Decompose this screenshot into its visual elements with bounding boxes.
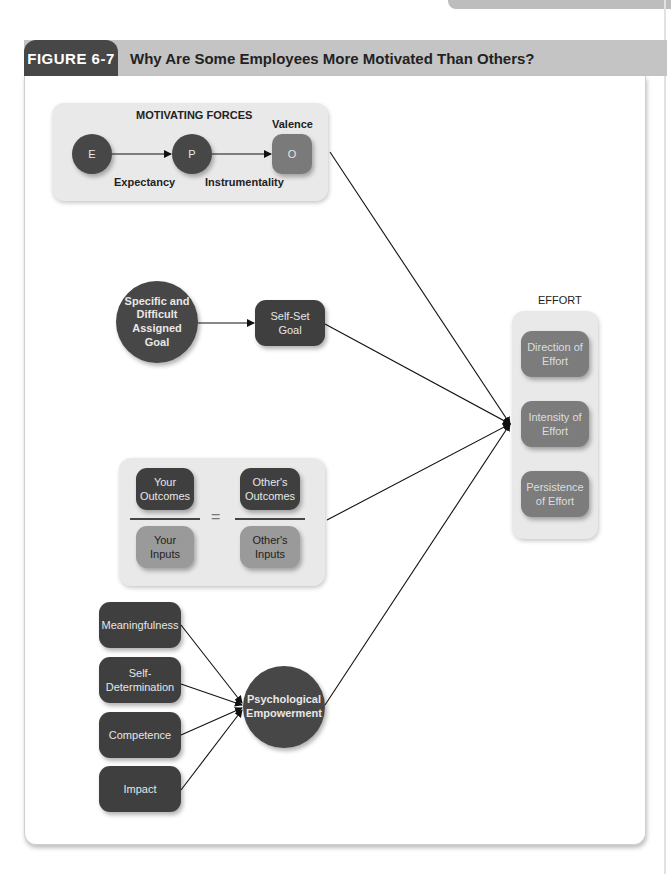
arrow-empowerment-to-effort [325,424,510,705]
connector-arrows [0,0,671,874]
arrow-meaningfulness [181,625,242,703]
arrow-selfset-to-effort [325,324,510,424]
arrow-self-determination [181,684,242,705]
arrow-motivating-to-effort [330,152,510,424]
arrow-equity-to-effort [327,424,510,520]
